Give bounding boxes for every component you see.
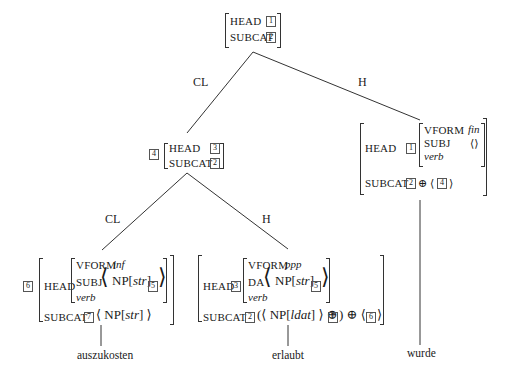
edge-root-left [187,52,253,133]
auszukosten-subcat-tag: 7 [84,312,94,323]
wurde-subcat-list-tag: 4 [437,178,447,189]
edge-label-mid-left: CL [105,212,120,227]
erlaubt-subcat-tag: 2 [245,312,255,323]
erlaubt-da-tag: 5 [311,281,321,292]
auszukosten-subcat-np: NP[ [104,307,125,322]
mid-node-tag: 4 [149,149,159,160]
wurde-subcat-tag: 2 [406,178,416,189]
auszukosten-subj-np: NP[ [112,273,133,288]
word-wurde: wurde [407,347,436,359]
root-subcat-tag: 2 [266,32,276,43]
auszukosten-subj-case: str [133,273,147,288]
auszukosten-subj-tag: 5 [148,281,158,292]
erlaubt-da-np: NP[ [275,273,296,288]
mid-subcat-attr: SUBCAT [169,157,212,169]
auszukosten-subcat-case: str [125,307,139,322]
erlaubt-op-2: ⊕ [347,307,358,322]
erlaubt-subcat-case: ldat [291,307,311,322]
auszukosten-type: verb [76,291,96,303]
erlaubt-da-attr: DA [248,276,264,288]
edge-label-root-left: CL [193,75,208,90]
wurde-subcat-attr: SUBCAT [365,177,408,189]
wurde-vform-val: fin [468,123,480,135]
wurde-subj-val: ⟨⟩ [470,137,479,149]
root-head-attr: HEAD [230,15,261,27]
wurde-subcat-op: ⊕ [418,177,427,189]
mid-head-attr: HEAD [169,142,200,154]
word-erlaubt: erlaubt [272,349,304,361]
wurde-head-tag: 1 [406,143,416,154]
erlaubt-subcat-tag3: 6 [366,312,376,323]
edge-mid-right [187,173,288,249]
mid-head-tag: 3 [210,143,220,154]
auszukosten-subcat-attr: SUBCAT [44,311,87,323]
erlaubt-head-attr: HEAD [203,280,234,292]
auszukosten-vform-attr: VFORM [76,259,116,271]
wurde-type: verb [424,150,444,162]
edge-label-mid-right: H [262,212,271,227]
wurde-head-attr: HEAD [365,142,396,154]
erlaubt-subcat-np: NP[ [270,307,291,322]
word-auszukosten: auszukosten [77,349,133,361]
edge-label-root-right: H [358,75,367,90]
mid-subcat-tag: 2 [210,158,220,169]
wurde-subj-attr: SUBJ [424,137,450,149]
erlaubt-head-tag: 3 [231,281,241,292]
auszukosten-subcat-close: ] [139,307,143,322]
root-head-tag: 1 [266,16,276,27]
erlaubt-da-case: str [296,273,310,288]
erlaubt-subcat-attr: SUBCAT [203,311,246,323]
auszukosten-subj-attr: SUBJ [76,276,102,288]
erlaubt-subcat-tag2: 7 [328,312,338,323]
auszukosten-vform-val: inf [113,258,125,270]
wurde-vform-attr: VFORM [424,124,464,136]
erlaubt-type: verb [248,291,268,303]
erlaubt-vform-val: ppp [285,258,302,270]
erlaubt-subcat-close: ] [311,307,315,322]
edge-root-right [253,52,420,120]
auszukosten-node-tag: 6 [23,281,33,292]
